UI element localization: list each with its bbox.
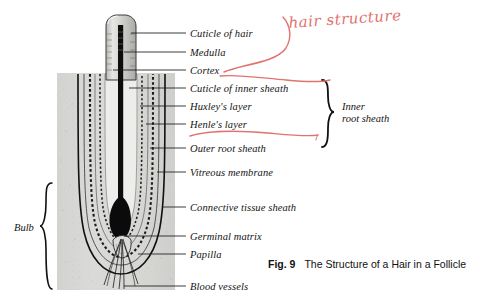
inner-root-sheath-brace [322,80,334,147]
label-blood-vessels: Blood vessels [190,281,248,292]
label-connective-tissue-sheath: Connective tissue sheath [190,202,296,213]
figure-number: Fig. 9 [268,258,295,270]
label-bulb: Bulb [14,222,34,233]
label-papilla: Papilla [190,249,222,260]
label-cortex: Cortex [190,65,219,76]
label-vitreous-membrane: Vitreous membrane [190,167,273,178]
label-medulla: Medulla [190,47,226,58]
label-huxleys-layer: Huxley's layer [190,101,252,112]
figure-caption-text: The Structure of a Hair in a Follicle [304,258,466,270]
label-germinal-matrix: Germinal matrix [190,231,262,242]
bulb-brace [40,183,52,289]
label-inner-root-sheath: Inner root sheath [342,101,389,125]
figure-page: Cuticle of hair Medulla Cortex Cuticle o… [0,0,487,305]
label-outer-root-sheath: Outer root sheath [190,143,266,154]
label-cuticle-of-inner-sheath: Cuticle of inner sheath [190,83,288,94]
figure-caption: Fig. 9The Structure of a Hair in a Folli… [268,258,466,270]
label-cuticle-of-hair: Cuticle of hair [190,28,253,39]
label-henles-layer: Henle's layer [190,119,247,130]
